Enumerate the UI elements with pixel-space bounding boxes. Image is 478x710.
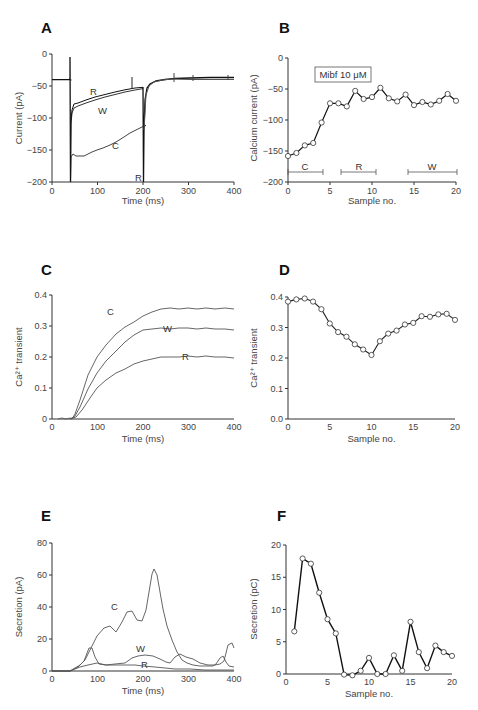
svg-text:15: 15 <box>408 422 418 432</box>
svg-text:0: 0 <box>285 186 290 196</box>
svg-text:0: 0 <box>285 422 290 432</box>
svg-text:300: 300 <box>181 186 196 196</box>
panel-c-traces <box>58 308 234 419</box>
svg-text:400: 400 <box>226 422 241 432</box>
svg-text:0: 0 <box>276 669 281 679</box>
svg-text:0: 0 <box>283 677 288 687</box>
panel-c: C 0 0.1 0.2 0.3 0.4 0 100 200 300 400 Ti… <box>13 261 242 444</box>
panel-d-y-ticks: 0.0 0.1 0.2 0.3 0.4 <box>270 292 283 424</box>
panel-f-x-ticks: 0 5 10 15 20 <box>283 677 457 687</box>
svg-text:0.2: 0.2 <box>270 353 283 363</box>
panel-f-series <box>294 559 452 676</box>
svg-text:20: 20 <box>271 540 281 550</box>
svg-text:0.1: 0.1 <box>270 384 283 394</box>
svg-text:400: 400 <box>226 186 241 196</box>
panel-c-y-ticks: 0 0.1 0.2 0.3 0.4 <box>34 290 47 424</box>
svg-text:20: 20 <box>37 634 47 644</box>
svg-text:200: 200 <box>135 674 150 684</box>
panel-letter-c: C <box>41 261 52 278</box>
figure: A 0 −50 −100 −150 −200 0 100 200 300 400… <box>0 0 478 710</box>
svg-text:5: 5 <box>327 422 332 432</box>
panel-e: E 0 20 40 60 80 0 100 200 300 400 Time (… <box>13 507 242 696</box>
svg-text:15: 15 <box>405 677 415 687</box>
panel-e-y-ticks: 0 20 40 60 80 <box>37 538 47 676</box>
panel-b-y-label: Calcium current (pA) <box>248 74 259 161</box>
svg-text:0.1: 0.1 <box>34 383 47 393</box>
svg-text:10: 10 <box>366 422 376 432</box>
panel-a-y-ticks: 0 −50 −100 −150 −200 <box>27 49 47 187</box>
svg-text:−200: −200 <box>263 177 283 187</box>
panel-f-y-label: Secretion (pC) <box>248 578 259 639</box>
panel-e-x-label: Time (ms) <box>122 685 164 696</box>
panel-a: A 0 −50 −100 −150 −200 0 100 200 300 400… <box>13 19 242 206</box>
svg-text:0.4: 0.4 <box>270 292 283 302</box>
curve-label-c: C <box>111 601 118 612</box>
svg-text:5: 5 <box>276 637 281 647</box>
svg-text:400: 400 <box>226 674 241 684</box>
svg-text:100: 100 <box>90 422 105 432</box>
range-label-r: R <box>356 161 363 172</box>
panel-letter-f: F <box>277 507 286 524</box>
svg-text:0: 0 <box>42 666 47 676</box>
svg-text:0.3: 0.3 <box>270 323 283 333</box>
panel-b-y-ticks: 0 −50 −100 −150 −200 <box>263 53 283 187</box>
panel-d-y-label: Ca²⁺ transient <box>248 328 259 388</box>
curve-label-r: R <box>90 86 97 97</box>
svg-text:5: 5 <box>325 677 330 687</box>
panel-d-x-label: Sample no. <box>347 433 395 444</box>
svg-text:10: 10 <box>271 605 281 615</box>
range-label-c: C <box>302 161 309 172</box>
svg-text:100: 100 <box>90 186 105 196</box>
svg-text:−50: −50 <box>32 81 47 91</box>
panel-f-y-ticks: 0 5 10 15 20 <box>271 540 281 679</box>
panel-c-axes <box>49 295 234 419</box>
trace-r <box>71 87 144 182</box>
curve-label-w: W <box>163 323 172 334</box>
panel-letter-e: E <box>41 507 51 524</box>
panel-b-legend-box: Mibf 10 μM <box>315 67 371 82</box>
curve-label-c: C <box>107 306 114 317</box>
svg-text:0.0: 0.0 <box>270 414 283 424</box>
panel-d-series <box>288 299 455 356</box>
curve-label-r-bottom: R <box>135 172 142 183</box>
panel-d-x-ticks: 0 5 10 15 20 <box>285 422 460 432</box>
svg-text:300: 300 <box>181 422 196 432</box>
panel-d-markers <box>285 296 457 358</box>
panel-e-x-ticks: 0 100 200 300 400 <box>49 674 241 684</box>
panel-b-markers <box>285 85 458 158</box>
curve-label-w: W <box>98 105 107 116</box>
svg-text:0.3: 0.3 <box>34 321 47 331</box>
svg-text:20: 20 <box>450 422 460 432</box>
svg-text:100: 100 <box>90 674 105 684</box>
panel-a-axes <box>49 54 234 185</box>
svg-text:0: 0 <box>49 186 54 196</box>
svg-text:40: 40 <box>37 602 47 612</box>
svg-text:Mibf 10 μM: Mibf 10 μM <box>319 69 366 80</box>
panel-a-x-label: Time (ms) <box>122 195 164 206</box>
svg-text:−100: −100 <box>27 113 47 123</box>
svg-text:0: 0 <box>42 414 47 424</box>
svg-text:−50: −50 <box>268 84 283 94</box>
svg-text:300: 300 <box>181 674 196 684</box>
trace-c <box>58 308 234 419</box>
svg-text:200: 200 <box>135 422 150 432</box>
svg-text:−100: −100 <box>263 115 283 125</box>
panel-letter-d: D <box>279 261 290 278</box>
svg-text:−150: −150 <box>263 146 283 156</box>
svg-text:0.2: 0.2 <box>34 352 47 362</box>
svg-text:10: 10 <box>364 677 374 687</box>
trace-w <box>70 328 234 419</box>
svg-text:15: 15 <box>271 572 281 582</box>
trace-r <box>70 356 234 419</box>
curve-label-r: R <box>141 659 148 670</box>
panel-c-x-label: Time (ms) <box>122 433 164 444</box>
svg-text:−200: −200 <box>27 177 47 187</box>
svg-text:−150: −150 <box>27 145 47 155</box>
svg-text:0: 0 <box>42 49 47 59</box>
svg-text:5: 5 <box>327 186 332 196</box>
panel-b-x-label: Sample no. <box>348 195 396 206</box>
panel-letter-b: B <box>279 19 290 36</box>
panel-a-traces <box>52 57 234 182</box>
svg-text:0: 0 <box>49 422 54 432</box>
trace-w <box>71 89 144 182</box>
